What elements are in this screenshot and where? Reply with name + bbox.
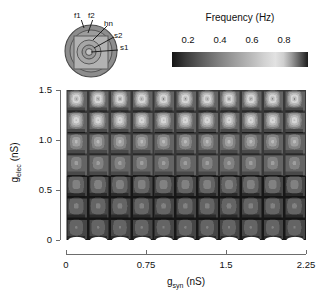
x-axis-title: gsyn (nS) bbox=[66, 276, 306, 291]
heatmap-plot-area bbox=[66, 90, 306, 240]
neuron-schematic-inset bbox=[62, 20, 120, 78]
schematic-label-f2: f2 bbox=[88, 12, 95, 20]
figure-root: f1 f2 hn s2 s1 Frequency (Hz) 0.20.40.60… bbox=[0, 0, 324, 297]
y-axis-tick-label: 1.0 bbox=[26, 135, 52, 145]
colorbar-tick-label: 0.6 bbox=[245, 34, 258, 45]
y-axis-tick bbox=[56, 140, 60, 141]
x-axis-tick bbox=[226, 250, 227, 254]
y-axis-tick bbox=[56, 90, 60, 91]
y-axis-tick bbox=[56, 190, 60, 191]
schematic-label-hn: hn bbox=[104, 20, 113, 28]
x-axis-tick-label: 0.75 bbox=[137, 259, 156, 270]
x-axis-line bbox=[66, 254, 306, 255]
colorbar-gradient-strip bbox=[172, 52, 308, 67]
x-axis-tick bbox=[66, 250, 67, 254]
y-axis-tick-label: 0 bbox=[26, 235, 52, 245]
y-axis-tick-label: 0.5 bbox=[26, 185, 52, 195]
schematic-label-s1: s1 bbox=[120, 44, 128, 52]
y-axis-tick bbox=[56, 240, 60, 241]
x-axis-tick bbox=[146, 250, 147, 254]
colorbar-title: Frequency (Hz) bbox=[170, 12, 310, 23]
x-axis-tick-label: 0 bbox=[63, 259, 68, 270]
x-axis-tick-label: 1.5 bbox=[219, 259, 232, 270]
x-axis-tick-label: 2.25 bbox=[297, 259, 316, 270]
x-axis-tick bbox=[306, 250, 307, 254]
y-axis-title: gelec (nS) bbox=[9, 130, 24, 196]
schematic-label-f1: f1 bbox=[74, 12, 81, 20]
colorbar-tick-labels: 0.20.40.60.8 bbox=[170, 34, 310, 47]
colorbar-tick-label: 0.4 bbox=[213, 34, 226, 45]
colorbar-tick-label: 0.8 bbox=[277, 34, 290, 45]
colorbar-tick-label: 0.2 bbox=[181, 34, 194, 45]
colorbar: Frequency (Hz) 0.20.40.60.8 bbox=[170, 12, 310, 68]
schematic-label-s2: s2 bbox=[114, 32, 122, 40]
y-axis-line bbox=[60, 90, 61, 240]
y-axis-tick-label: 1.5 bbox=[26, 85, 52, 95]
contour-heatmap-canvas bbox=[66, 90, 306, 240]
